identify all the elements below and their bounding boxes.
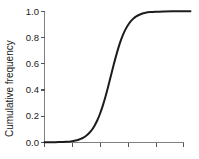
y-tick-label: 0.4 — [26, 84, 39, 95]
chart-figure: Cumulative frequency 1.0 0.8 0.6 0.4 0.2… — [0, 0, 199, 159]
y-tick-label: 1.0 — [26, 6, 39, 17]
chart-background — [0, 0, 199, 159]
cumulative-frequency-chart: Cumulative frequency 1.0 0.8 0.6 0.4 0.2… — [0, 0, 199, 159]
y-tick-label: 0.0 — [26, 137, 39, 148]
y-axis-title: Cumulative frequency — [4, 40, 15, 137]
y-tick-label: 0.8 — [26, 32, 39, 43]
y-tick-label: 0.6 — [26, 58, 39, 69]
y-tick-label: 0.2 — [26, 110, 39, 121]
